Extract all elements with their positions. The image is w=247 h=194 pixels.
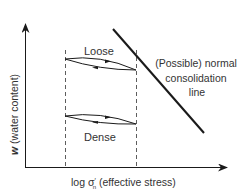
ncl-label-line2: consolidation xyxy=(165,72,226,84)
ncl-label-line3: line xyxy=(189,86,206,98)
loose-label: Loose xyxy=(84,45,114,57)
x-axis-label-prefix: log σ xyxy=(71,176,95,188)
dense-label: Dense xyxy=(84,131,116,143)
y-axis-label: w (water content) xyxy=(8,74,20,155)
arrow-right-icon xyxy=(105,60,111,64)
arrow-right-icon xyxy=(105,116,111,120)
loose-loop xyxy=(65,58,136,70)
x-axis-label-rest: (effective stress) xyxy=(96,176,176,188)
arrow-left-icon xyxy=(92,67,98,70)
x-axis-label: log σ′n (effective stress) xyxy=(71,176,176,190)
ncl-label-line1: (Possible) normal xyxy=(155,57,237,69)
dense-loop xyxy=(65,115,136,124)
y-axis-label-rest: (water content) xyxy=(8,74,20,147)
diagram-canvas: Loose Dense (Possible) normal consolidat… xyxy=(0,0,247,194)
